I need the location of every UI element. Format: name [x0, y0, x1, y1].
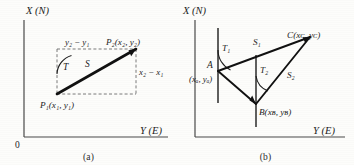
point-coords-A: (xₐ, yₐ)	[189, 74, 212, 84]
panel-a-drawing: X (N) Y (E) 0 y₂ − y₁ x₂ − x₁ P₂(x₂, y₂)…	[0, 0, 177, 165]
origin-label: 0	[15, 140, 20, 150]
point-label-A: A	[206, 60, 213, 70]
panel-a: X (N) Y (E) 0 y₂ − y₁ x₂ − x₁ P₂(x₂, y₂)…	[0, 0, 177, 165]
distance-line-S	[57, 49, 136, 94]
azimuth-arc-T2	[256, 76, 268, 91]
distance-label-S: S	[85, 59, 90, 69]
caption-panel-b: (b)	[177, 152, 354, 162]
point-label-P2: P₂(x₂, y₂)	[105, 37, 140, 47]
point-label-P1: P₁(x₁, y₁)	[39, 100, 74, 110]
angle-label-T2: T₂	[260, 65, 268, 75]
axis-x-label: X (N)	[25, 5, 50, 17]
panel-b: X (N) Y (E) C(xᴄ, yᴄ) A (xₐ, yₐ) B(xʙ, y…	[177, 0, 354, 165]
figure-root: X (N) Y (E) 0 y₂ − y₁ x₂ − x₁ P₂(x₂, y₂)…	[0, 0, 354, 165]
caption-panel-a: (a)	[0, 152, 177, 162]
angle-label-T1: T₁	[222, 43, 230, 53]
axis-x-label: X (N)	[182, 5, 207, 17]
angle-label-T: T	[63, 62, 69, 72]
axis-y-label: Y (E)	[313, 125, 335, 137]
point-label-C: C(xᴄ, yᴄ)	[287, 30, 320, 40]
axis-y-label: Y (E)	[140, 125, 162, 137]
distance-label-S2: S₂	[287, 70, 295, 80]
panel-b-drawing: X (N) Y (E) C(xᴄ, yᴄ) A (xₐ, yₐ) B(xʙ, y…	[177, 0, 354, 165]
arrowhead-P2	[129, 49, 137, 56]
point-label-B: B(xʙ, yʙ)	[259, 107, 291, 117]
arrowhead-B-from-A	[250, 96, 257, 104]
delta-x-label: x₂ − x₁	[138, 67, 163, 77]
distance-label-S1: S₁	[253, 37, 261, 47]
delta-y-label: y₂ − y₁	[64, 37, 89, 47]
